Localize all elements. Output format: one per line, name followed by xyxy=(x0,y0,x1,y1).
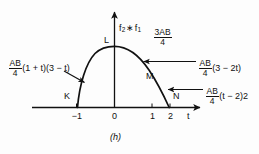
point-label-n: N xyxy=(173,92,180,101)
middle-branch-fraction: AB 4 xyxy=(199,59,212,78)
figure-caption-text: (h) xyxy=(110,132,121,142)
right-branch-fraction: AB 4 xyxy=(206,87,219,106)
y-axis-label-f2-sub: 2 xyxy=(122,26,126,33)
middle-branch-denominator: 4 xyxy=(199,69,212,78)
point-label-l: L xyxy=(104,36,109,45)
peak-fraction: 3AB 4 xyxy=(154,28,172,47)
right-branch-annotation: AB 4 (t − 2)2 xyxy=(205,81,248,106)
left-branch-denominator: 4 xyxy=(9,69,22,78)
convolution-curve xyxy=(78,46,170,107)
x-tick-label-0: 0 xyxy=(107,112,122,121)
peak-value-annotation: 3AB 4 xyxy=(153,28,172,47)
y-axis-label: f2∗f1 xyxy=(119,24,141,34)
left-branch-annotation: AB 4 (1 + t)(3 − t) xyxy=(8,53,70,78)
right-branch-numerator: AB xyxy=(206,87,219,97)
middle-branch-expression: (3 − 2t) xyxy=(212,64,241,73)
point-label-m: M xyxy=(146,72,154,81)
convolution-operator-icon: ∗ xyxy=(126,23,135,33)
peak-numerator: 3AB xyxy=(154,28,172,38)
y-axis-label-f1-sub: 1 xyxy=(137,26,141,33)
left-branch-expression: (1 + t)(3 − t) xyxy=(22,64,70,73)
x-tick-label-1: 1 xyxy=(145,112,160,121)
x-axis-label: t xyxy=(187,112,190,121)
figure-caption: (h) xyxy=(110,133,121,142)
left-branch-numerator: AB xyxy=(9,59,22,69)
convolution-figure: f2∗f1 3AB 4 AB 4 (1 + t)(3 − t) AB 4 (3 … xyxy=(0,0,259,154)
point-label-k: K xyxy=(64,92,70,101)
right-branch-expression: (t − 2) xyxy=(219,92,243,101)
x-tick-label-2: 2 xyxy=(163,112,178,121)
x-tick-label-neg1: −1 xyxy=(68,112,86,121)
left-branch-fraction: AB 4 xyxy=(9,59,22,78)
peak-denominator: 4 xyxy=(154,38,172,47)
right-branch-superscript: 2 xyxy=(243,92,248,101)
middle-branch-annotation: AB 4 (3 − 2t) xyxy=(198,53,241,78)
right-branch-denominator: 4 xyxy=(206,97,219,106)
middle-branch-numerator: AB xyxy=(199,59,212,69)
